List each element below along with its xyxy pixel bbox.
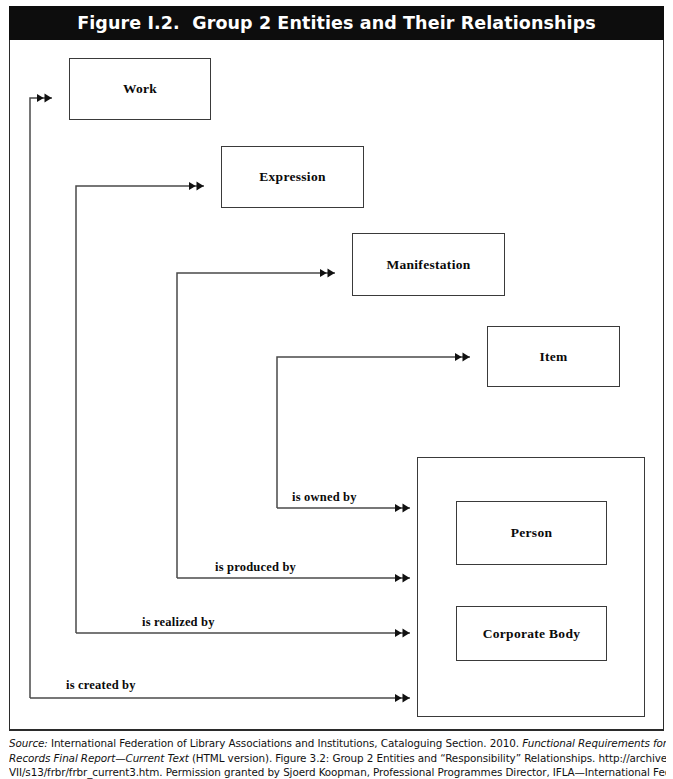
entity-box-expression[interactable]: Expression [221,146,364,208]
entity-box-person[interactable]: Person [456,501,607,565]
source-caption: Source: International Federation of Libr… [9,736,666,779]
group-2-container [417,457,645,717]
source-title-part-1: Functional Requirements for Bibliographi… [522,737,666,749]
entity-box-work[interactable]: Work [69,58,211,120]
source-divider [9,730,664,731]
source-line-1-text: International Federation of Library Asso… [48,737,522,749]
relationship-label-is-created-by: is created by [62,678,140,693]
relationship-label-is-realized-by: is realized by [138,615,219,630]
source-line-2: Records Final Report—Current Text (HTML … [9,751,666,766]
entity-label-expression: Expression [259,169,326,185]
entity-label-item: Item [539,349,567,365]
entity-box-corporate-body[interactable]: Corporate Body [456,606,607,661]
entity-label-person: Person [511,525,553,541]
relationship-label-is-produced-by: is produced by [211,560,300,575]
figure-title-bar: Figure I.2. Group 2 Entities and Their R… [9,6,664,40]
source-line-2-text: (HTML version). Figure 3.2: Group 2 Enti… [189,752,666,764]
source-line-1: Source: International Federation of Libr… [9,736,666,751]
entity-label-corporate-body: Corporate Body [483,626,581,642]
entity-box-item[interactable]: Item [487,326,620,387]
source-line-3: VII/s13/frbr/frbr_current3.htm. Permissi… [9,765,666,779]
entity-box-manifestation[interactable]: Manifestation [352,233,505,296]
source-label: Source: [9,737,48,749]
source-title-part-2: Records Final Report—Current Text [9,752,189,764]
relationship-label-is-owned-by: is owned by [288,490,361,505]
entity-label-work: Work [123,81,157,97]
entity-label-manifestation: Manifestation [386,257,470,273]
figure-container: Figure I.2. Group 2 Entities and Their R… [0,0,673,779]
